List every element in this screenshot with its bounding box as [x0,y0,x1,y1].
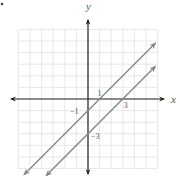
x-intercept-label-1: 1 [98,89,102,98]
x-axis-label: x [170,93,176,105]
line-series-1 [24,43,155,174]
x-intercept-label-3: 3 [124,101,128,110]
y-intercept-label-neg3: −3 [91,132,100,141]
coordinate-plane: xy1−13−3 [0,0,180,176]
line-series-2 [46,67,155,176]
y-intercept-label-neg1: −1 [70,107,79,116]
y-axis-label: y [85,0,91,12]
list-marker-icon [1,3,3,5]
